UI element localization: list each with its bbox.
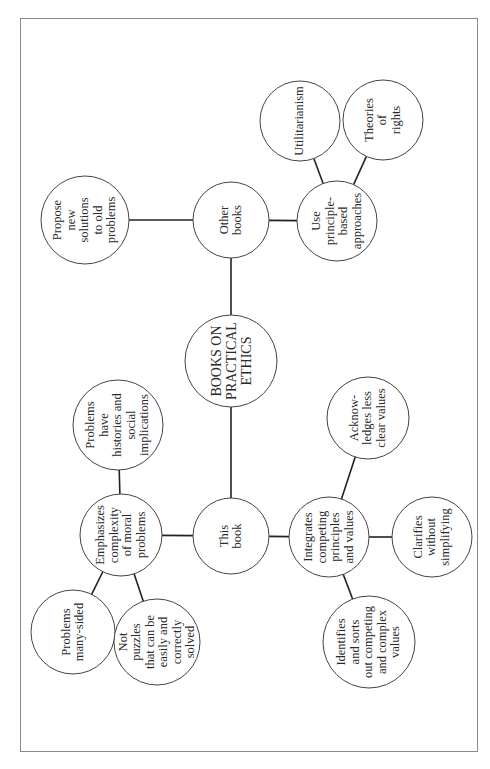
- connector-integrates-acknowledges: [341, 457, 355, 499]
- node-rights: [343, 80, 423, 160]
- node-puzzles: [114, 599, 200, 685]
- node-this-book: [193, 498, 269, 574]
- node-other-books: [193, 182, 269, 258]
- node-circle: [73, 380, 163, 470]
- node-integrates: [289, 497, 369, 577]
- node-principle: [297, 181, 377, 261]
- node-circle: [31, 590, 115, 674]
- node-many-sided: [31, 590, 115, 674]
- node-circle: [343, 80, 423, 160]
- node-utilitarianism: [260, 81, 340, 161]
- node-circle: [185, 315, 277, 407]
- node-circle: [114, 599, 200, 685]
- concept-map: [0, 0, 490, 769]
- connector-principle-rights: [354, 156, 367, 184]
- node-identifies: [323, 596, 415, 688]
- node-circle: [193, 498, 269, 574]
- connector-principle-utilitarianism: [314, 159, 323, 184]
- node-emphasizes: [80, 494, 162, 576]
- node-acknowledges: [327, 377, 409, 459]
- node-circle: [80, 494, 162, 576]
- node-circle: [289, 497, 369, 577]
- node-circle: [260, 81, 340, 161]
- node-propose: [41, 176, 129, 264]
- node-circle: [327, 377, 409, 459]
- node-histories: [73, 380, 163, 470]
- node-clarifies: [392, 497, 472, 577]
- node-circle: [297, 181, 377, 261]
- node-circle: [323, 596, 415, 688]
- node-circle: [392, 497, 472, 577]
- concept-nodes: [31, 80, 472, 688]
- connector-emphasizes-puzzles: [134, 574, 143, 601]
- connector-emphasizes-histories: [119, 470, 120, 494]
- node-circle: [193, 182, 269, 258]
- connector-emphasizes-many_sided: [92, 572, 103, 595]
- node-circle: [41, 176, 129, 264]
- node-root: [185, 315, 277, 407]
- connector-integrates-identifies: [343, 574, 352, 599]
